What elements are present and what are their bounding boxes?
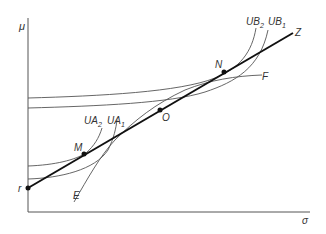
indifference-curve-UA1 (28, 120, 117, 179)
label-N: N (215, 59, 223, 70)
point-r (26, 186, 31, 191)
label-O: O (162, 112, 170, 123)
indifference-curve-UA2 (28, 128, 102, 166)
label-UA2: UA2 (84, 115, 102, 128)
y-axis-label: μ (18, 20, 25, 32)
label-E: E (73, 190, 80, 201)
efficient-frontier (74, 75, 262, 202)
point-N (222, 70, 227, 75)
label-UB1: UB1 (268, 16, 286, 29)
label-F: F (262, 71, 269, 82)
label-M: M (74, 142, 83, 153)
label-Z: Z (294, 27, 302, 38)
label-r: r (18, 183, 22, 194)
x-axis-label: σ (302, 215, 309, 226)
portfolio-diagram: μ σ r M O N Z E F UA2 UA1 UB2 UB1 (0, 0, 326, 234)
label-UB2: UB2 (246, 16, 264, 29)
